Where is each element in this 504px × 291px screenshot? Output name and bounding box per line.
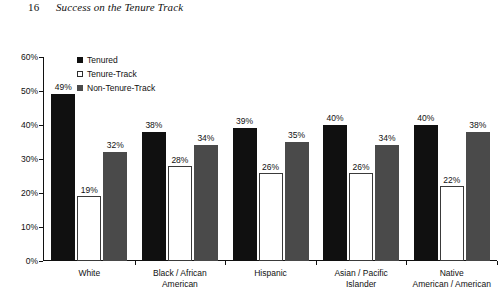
legend-item-label: Tenure-Track	[87, 69, 137, 79]
page-number: 16	[28, 1, 39, 13]
legend-item-label: Tenured	[87, 55, 118, 65]
chart-legend: TenuredTenure-TrackNon-Tenure-Track	[77, 53, 227, 95]
running-title: Success on the Tenure Track	[56, 1, 183, 13]
bar-value-label: 34%	[197, 133, 214, 143]
x-axis-tick-mark	[135, 261, 136, 265]
x-axis-category-label: Asian / PacificIslander	[334, 268, 387, 289]
bar-value-label: 38%	[469, 120, 486, 130]
x-axis-category-line1: Native	[412, 268, 490, 279]
x-axis-category-line1: Hispanic	[254, 268, 287, 279]
x-axis-category-line2: American / American	[412, 279, 490, 290]
legend-item[interactable]: Tenured	[77, 53, 227, 67]
bar-value-label: 32%	[107, 140, 124, 150]
bar-value-label: 38%	[145, 120, 162, 130]
bar-value-label: 49%	[55, 82, 72, 92]
outline-white-square-icon	[77, 71, 83, 77]
x-axis-category-label: Hispanic	[254, 268, 287, 279]
bar-chart-figure: 0%10%20%30%40%50%60% 49%19%32%38%28%34%3…	[0, 20, 504, 291]
bar-non-tenure-track[interactable]	[103, 152, 127, 261]
bar-value-label: 28%	[170, 155, 189, 165]
y-axis-tick-label: 40%	[6, 120, 38, 130]
y-axis-tick-label: 30%	[6, 154, 38, 164]
bar-value-label: 40%	[327, 113, 344, 123]
bar-group: 39%26%35%	[233, 57, 309, 261]
bar-group: 40%26%34%	[323, 57, 399, 261]
bar-tenured[interactable]	[323, 125, 347, 261]
bar-value-label: 22%	[442, 175, 461, 185]
bar-non-tenure-track[interactable]	[194, 145, 218, 261]
bar-tenured[interactable]	[233, 128, 257, 261]
x-axis-category-line1: White	[78, 268, 100, 279]
y-axis-tick-mark	[39, 261, 43, 262]
bar-tenure-track[interactable]	[259, 173, 283, 261]
legend-item[interactable]: Non-Tenure-Track	[77, 81, 227, 95]
bar-tenure-track[interactable]	[168, 166, 192, 261]
x-axis: WhiteBlack / AfricanAmericanHispanicAsia…	[0, 268, 504, 291]
x-axis-category-line1: Black / African	[153, 268, 207, 279]
y-axis: 0%10%20%30%40%50%60%	[0, 20, 38, 291]
x-axis-tick-mark	[406, 261, 407, 265]
bar-value-label: 35%	[288, 130, 305, 140]
x-axis-category-line2: Islander	[334, 279, 387, 290]
bar-tenure-track[interactable]	[440, 186, 464, 261]
bar-non-tenure-track[interactable]	[375, 145, 399, 261]
bar-value-label: 19%	[80, 185, 99, 195]
bar-value-label: 40%	[417, 113, 434, 123]
x-axis-category-line1: Asian / Pacific	[334, 268, 387, 279]
bar-non-tenure-track[interactable]	[285, 142, 309, 261]
x-axis-tick-mark	[225, 261, 226, 265]
bar-tenured[interactable]	[414, 125, 438, 261]
x-axis-category-label: NativeAmerican / American	[412, 268, 490, 289]
x-axis-category-label: White	[78, 268, 100, 279]
filled-gray-square-icon	[77, 85, 83, 91]
y-axis-tick-label: 60%	[6, 52, 38, 62]
bar-tenure-track[interactable]	[349, 173, 373, 261]
running-header: 16 Success on the Tenure Track	[0, 0, 504, 20]
y-axis-tick-label: 50%	[6, 86, 38, 96]
bar-group: 40%22%38%	[414, 57, 490, 261]
bar-value-label: 26%	[261, 162, 280, 172]
bar-tenured[interactable]	[51, 94, 75, 261]
bar-value-label: 39%	[236, 116, 253, 126]
x-axis-category-line2: American	[153, 279, 207, 290]
y-axis-tick-label: 0%	[6, 256, 38, 266]
bar-tenured[interactable]	[142, 132, 166, 261]
legend-item-label: Non-Tenure-Track	[87, 83, 155, 93]
bar-value-label: 26%	[352, 162, 371, 172]
bar-non-tenure-track[interactable]	[466, 132, 490, 261]
legend-item[interactable]: Tenure-Track	[77, 67, 227, 81]
x-axis-category-label: Black / AfricanAmerican	[153, 268, 207, 289]
x-axis-tick-mark	[497, 261, 498, 265]
filled-black-square-icon	[77, 57, 83, 63]
bar-tenure-track[interactable]	[77, 196, 101, 261]
y-axis-tick-label: 10%	[6, 222, 38, 232]
bar-value-label: 34%	[379, 133, 396, 143]
y-axis-tick-label: 20%	[6, 188, 38, 198]
x-axis-tick-mark	[316, 261, 317, 265]
